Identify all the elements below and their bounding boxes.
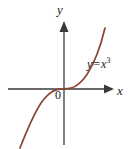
curve-equation-label: y=x3 bbox=[87, 58, 110, 70]
origin-label: 0 bbox=[55, 89, 61, 101]
curve-equation-exponent: 3 bbox=[106, 56, 110, 65]
x-axis-arrowhead bbox=[104, 85, 114, 94]
cubic-curve bbox=[20, 28, 105, 148]
y-axis-arrowhead bbox=[60, 21, 69, 32]
curve-equation-equals: = bbox=[92, 57, 101, 71]
x-axis-label: x bbox=[117, 84, 123, 97]
cubic-function-graph-figure: y x 0 y=x3 bbox=[0, 0, 132, 149]
y-axis-label: y bbox=[57, 3, 63, 16]
graph-canvas bbox=[0, 0, 132, 149]
